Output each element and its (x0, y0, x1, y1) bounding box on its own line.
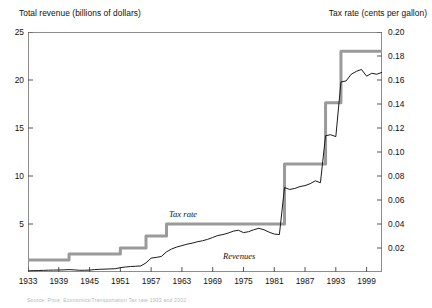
y-axis-left-tick-label: 5 (0, 219, 24, 229)
data-series (28, 51, 382, 271)
tick-marks (28, 32, 382, 272)
x-axis-tick-label: 1999 (347, 276, 387, 286)
right-axis-title: Tax rate (cents per gallon) (329, 8, 427, 18)
source-note: Source: Price, Economics/Transportation … (27, 297, 186, 303)
y-axis-right-tick-label: 0.16 (388, 75, 404, 85)
chart-figure: Total revenue (billions of dollars) Tax … (0, 0, 432, 308)
plot-svg (28, 32, 382, 272)
y-axis-right-tick-label: 0.20 (388, 27, 404, 37)
series-line-revenues (28, 69, 382, 270)
series-annotation-revenues: Revenues (223, 251, 255, 261)
y-axis-right-tick-label: 0.10 (388, 147, 404, 157)
y-axis-right-tick-label: 0.14 (388, 99, 404, 109)
plot-frame (29, 33, 382, 272)
plot-area (28, 32, 382, 272)
y-axis-right-tick-label: 0.12 (388, 123, 404, 133)
y-axis-left-tick-label: 10 (0, 171, 24, 181)
series-annotation-tax-rate: Tax rate (169, 209, 197, 219)
y-axis-right-tick-label: 0.08 (388, 171, 404, 181)
y-axis-right-tick-label: 0.04 (388, 219, 404, 229)
series-line-tax-rate (28, 51, 382, 260)
y-axis-right-tick-label: 0.06 (388, 195, 404, 205)
y-axis-right-tick-label: 0.18 (388, 51, 404, 61)
y-axis-left-tick-label: 15 (0, 123, 24, 133)
y-axis-left-tick-label: 20 (0, 75, 24, 85)
y-axis-right-tick-label: 0.02 (388, 243, 404, 253)
y-axis-left-tick-label: 25 (0, 27, 24, 37)
left-axis-title: Total revenue (billions of dollars) (19, 8, 141, 18)
